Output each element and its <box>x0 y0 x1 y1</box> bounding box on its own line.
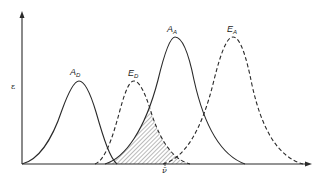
x-axis-nu-bar-label: ν̄ <box>162 167 167 175</box>
spectral-overlap-diagram: ε AD ED AA EA ν̄ <box>0 0 323 185</box>
curve-e-a <box>163 37 303 164</box>
y-axis-arrow-icon <box>20 11 25 18</box>
y-axis-label: ε <box>11 83 15 91</box>
curve-a-d <box>22 81 117 164</box>
axes <box>20 11 313 167</box>
diagram-canvas <box>0 0 323 185</box>
curve-a-a <box>105 37 245 164</box>
x-axis-arrow-icon <box>305 162 312 167</box>
label-e-d: ED <box>128 69 138 79</box>
label-e-a: EA <box>227 25 237 35</box>
overlap-hatched-region <box>105 37 245 164</box>
label-a-d: AD <box>70 68 80 78</box>
label-a-a: AA <box>167 25 177 35</box>
